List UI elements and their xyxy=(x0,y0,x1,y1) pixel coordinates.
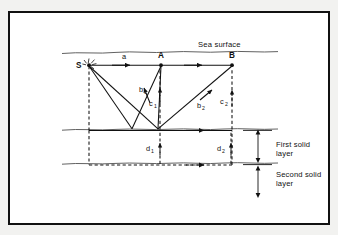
ray-label-b2-base: b xyxy=(197,101,201,110)
first-solid-layer-label-line1: First solid xyxy=(276,140,310,149)
ray-label-c1: c 1 xyxy=(149,99,157,109)
point-label-A: A xyxy=(158,51,164,60)
ray-label-c2-base: c xyxy=(220,97,224,106)
sea-surface-boundary xyxy=(62,51,278,53)
layer-bracket-first xyxy=(243,130,272,165)
point-marker-A xyxy=(159,63,163,67)
ray-label-d2-base: d xyxy=(217,144,221,153)
point-label-B: B xyxy=(229,51,235,60)
second-solid-layer-label-line1: Second solid xyxy=(276,170,321,179)
point-marker-S xyxy=(87,63,91,67)
second-solid-layer-label-line2: layer xyxy=(276,179,294,188)
ray-label-b2-sub: 2 xyxy=(202,105,205,111)
ray-label-d2: d 2 xyxy=(217,144,225,154)
ray-label-b1-sub: 1 xyxy=(144,89,147,95)
ray-label-d1-sub: 1 xyxy=(151,148,154,154)
first-solid-layer-label-line2: layer xyxy=(276,149,294,158)
ray-label-a-base: a xyxy=(122,52,127,61)
ray-label-a: a xyxy=(122,52,127,61)
ray-label-c1-sub: 1 xyxy=(154,103,157,109)
ray-path-diagram: Sea surface xyxy=(0,0,338,235)
ray-label-d2-sub: 2 xyxy=(222,148,225,154)
ray-label-c1-base: c xyxy=(149,99,153,108)
sea-surface-label: Sea surface xyxy=(198,40,241,49)
second-layer-boundary xyxy=(62,163,278,165)
ray-label-b1-base: b xyxy=(139,85,143,94)
ray-label-d1-base: d xyxy=(146,144,150,153)
reflected-ray-b1 xyxy=(89,66,161,129)
ray-label-c2-sub: 2 xyxy=(225,101,228,107)
figure-page: Sea surface xyxy=(0,0,338,235)
ray-label-b2: b 2 xyxy=(197,101,205,111)
ray-label-b1: b 1 xyxy=(139,85,147,95)
ray-label-c2: c 2 xyxy=(220,97,228,107)
point-marker-B xyxy=(230,63,234,67)
layer-bracket-second xyxy=(256,165,261,198)
point-label-S: S xyxy=(76,61,82,70)
ray-label-d1: d 1 xyxy=(146,144,154,154)
